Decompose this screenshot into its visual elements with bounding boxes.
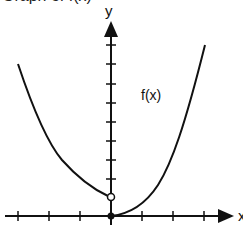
closed-endpoint-marker <box>108 213 115 220</box>
y-axis-arrow-icon <box>104 21 118 37</box>
open-endpoint-marker <box>108 194 115 201</box>
left-branch-curve <box>18 64 108 196</box>
y-axis-label: y <box>105 2 113 19</box>
function-label: f(x) <box>141 87 161 103</box>
right-branch-curve <box>111 45 205 216</box>
x-axis-label: x <box>238 207 243 224</box>
function-graph: x y f(x) <box>0 0 243 225</box>
x-axis-arrow-icon <box>218 209 234 223</box>
